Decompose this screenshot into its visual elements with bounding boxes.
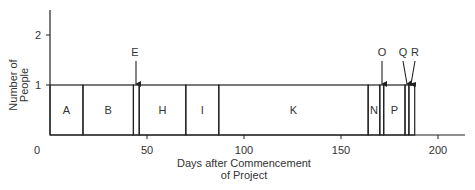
x-ticks: 050100150200 bbox=[34, 135, 447, 156]
activity-label-p: P bbox=[391, 104, 398, 116]
activity-label-i: I bbox=[201, 104, 204, 116]
activity-label-n: N bbox=[370, 104, 378, 116]
y-axis-title-line-2: People bbox=[18, 68, 30, 102]
callout-label-o: O bbox=[378, 46, 387, 58]
activity-label-b: B bbox=[105, 104, 112, 116]
activity-block-e bbox=[133, 85, 139, 135]
callout-arrow-icon bbox=[411, 61, 415, 84]
y-ticks: 12 bbox=[35, 29, 50, 91]
activity-blocks: ABHIKNP bbox=[50, 85, 415, 135]
x-tick-label: 150 bbox=[332, 144, 350, 156]
activity-callouts: EOQR bbox=[131, 46, 419, 84]
activity-label-k: K bbox=[290, 104, 298, 116]
resource-histogram-chart: 12 050100150200 Number of People Days af… bbox=[0, 0, 475, 190]
callout-label-r: R bbox=[411, 46, 419, 58]
y-axis-title: Number of People bbox=[7, 58, 30, 110]
callout-arrow-icon bbox=[403, 61, 407, 84]
callout-label-e: E bbox=[131, 46, 138, 58]
activity-label-h: H bbox=[159, 104, 167, 116]
y-tick-label: 1 bbox=[35, 79, 41, 91]
x-tick-label: 50 bbox=[141, 144, 153, 156]
x-axis-title-line-2: of Project bbox=[221, 169, 267, 181]
callout-label-q: Q bbox=[399, 46, 408, 58]
activity-block-r bbox=[409, 85, 415, 135]
x-tick-label: 100 bbox=[235, 144, 253, 156]
x-tick-label: 200 bbox=[429, 144, 447, 156]
activity-label-a: A bbox=[63, 104, 71, 116]
x-axis-title-line-1: Days after Commencement bbox=[177, 157, 311, 169]
y-tick-label: 2 bbox=[35, 29, 41, 41]
x-tick-label: 0 bbox=[34, 144, 40, 156]
